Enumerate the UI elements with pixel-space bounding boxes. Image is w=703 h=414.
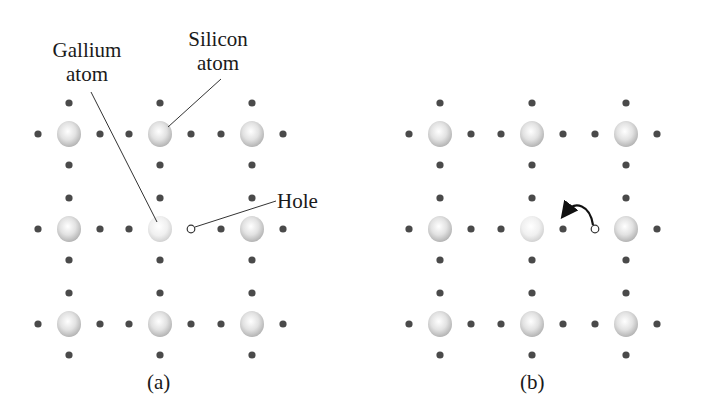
valence-electron bbox=[217, 225, 224, 232]
valence-electron bbox=[156, 351, 163, 358]
silicon-atom bbox=[428, 216, 452, 242]
leader-lines bbox=[91, 79, 276, 227]
valence-electron bbox=[34, 130, 41, 137]
valence-electron bbox=[436, 194, 443, 201]
valence-electron bbox=[405, 225, 412, 232]
valence-electron bbox=[248, 99, 255, 106]
valence-electron bbox=[156, 194, 163, 201]
valence-electron bbox=[653, 320, 660, 327]
silicon-atom-label: Silicon atom bbox=[176, 27, 260, 75]
valence-electron bbox=[187, 320, 194, 327]
silicon-label-line2: atom bbox=[176, 51, 260, 75]
valence-electron bbox=[528, 351, 535, 358]
valence-electron bbox=[436, 351, 443, 358]
valence-electron bbox=[467, 320, 474, 327]
silicon-label-line1: Silicon bbox=[176, 27, 260, 51]
valence-electron bbox=[467, 225, 474, 232]
gallium-atom bbox=[148, 216, 172, 242]
valence-electron bbox=[622, 351, 629, 358]
valence-electron bbox=[436, 99, 443, 106]
valence-electron bbox=[96, 130, 103, 137]
valence-electron bbox=[279, 225, 286, 232]
valence-electron bbox=[156, 256, 163, 263]
valence-electron bbox=[436, 161, 443, 168]
valence-electron bbox=[405, 320, 412, 327]
valence-electron bbox=[653, 225, 660, 232]
silicon-leader-line bbox=[168, 79, 221, 127]
caption-b: (b) bbox=[520, 370, 545, 395]
silicon-atom bbox=[57, 121, 81, 147]
hole-label: Hole bbox=[277, 189, 318, 213]
valence-electron bbox=[622, 256, 629, 263]
valence-electron bbox=[125, 320, 132, 327]
valence-electron bbox=[467, 130, 474, 137]
valence-electron bbox=[65, 289, 72, 296]
valence-electron bbox=[65, 256, 72, 263]
silicon-atom bbox=[520, 121, 544, 147]
valence-electron bbox=[96, 320, 103, 327]
valence-electron bbox=[622, 194, 629, 201]
valence-electron bbox=[528, 161, 535, 168]
valence-electron bbox=[248, 194, 255, 201]
valence-electron bbox=[622, 99, 629, 106]
silicon-atom bbox=[520, 311, 544, 337]
valence-electron bbox=[279, 320, 286, 327]
valence-electron bbox=[497, 320, 504, 327]
silicon-atom bbox=[428, 311, 452, 337]
valence-electron bbox=[248, 161, 255, 168]
valence-electron bbox=[622, 161, 629, 168]
valence-electron bbox=[528, 256, 535, 263]
gallium-leader-line bbox=[91, 92, 157, 222]
valence-electron bbox=[497, 130, 504, 137]
valence-electron bbox=[217, 130, 224, 137]
gallium-label-line2: atom bbox=[42, 62, 132, 86]
valence-electron bbox=[125, 130, 132, 137]
valence-electron bbox=[125, 225, 132, 232]
hole-marker bbox=[591, 225, 599, 233]
valence-electron bbox=[156, 99, 163, 106]
silicon-atom bbox=[240, 311, 264, 337]
valence-electron bbox=[405, 130, 412, 137]
valence-electron bbox=[528, 194, 535, 201]
hole-marker bbox=[187, 225, 195, 233]
silicon-atom bbox=[240, 121, 264, 147]
gallium-label-line1: Gallium bbox=[42, 38, 132, 62]
valence-electron bbox=[622, 289, 629, 296]
valence-electron bbox=[34, 320, 41, 327]
valence-electron bbox=[497, 225, 504, 232]
valence-electron bbox=[156, 161, 163, 168]
silicon-atom bbox=[614, 216, 638, 242]
valence-electron bbox=[156, 289, 163, 296]
silicon-atom bbox=[614, 311, 638, 337]
panel-a-lattice bbox=[34, 99, 286, 358]
hole-leader-line bbox=[195, 201, 276, 227]
caption-a: (a) bbox=[147, 370, 170, 395]
valence-electron bbox=[248, 351, 255, 358]
gallium-atom bbox=[520, 216, 544, 242]
valence-electron bbox=[65, 194, 72, 201]
valence-electron bbox=[528, 289, 535, 296]
valence-electron bbox=[248, 289, 255, 296]
valence-electron bbox=[559, 225, 566, 232]
silicon-atom bbox=[57, 216, 81, 242]
valence-electron bbox=[187, 130, 194, 137]
valence-electron bbox=[436, 256, 443, 263]
diagram-stage: Gallium atom Silicon atom Hole (a) (b) bbox=[0, 0, 703, 414]
silicon-atom bbox=[148, 121, 172, 147]
valence-electron bbox=[653, 130, 660, 137]
valence-electron bbox=[591, 320, 598, 327]
silicon-atom bbox=[240, 216, 264, 242]
silicon-atom bbox=[57, 311, 81, 337]
valence-electron bbox=[436, 289, 443, 296]
silicon-atom bbox=[614, 121, 638, 147]
valence-electron bbox=[279, 130, 286, 137]
valence-electron bbox=[217, 320, 224, 327]
valence-electron bbox=[528, 99, 535, 106]
valence-electron bbox=[248, 256, 255, 263]
valence-electron bbox=[65, 99, 72, 106]
gallium-atom-label: Gallium atom bbox=[42, 38, 132, 86]
hole-motion-arrow-icon bbox=[566, 206, 593, 225]
silicon-atom bbox=[428, 121, 452, 147]
valence-electron bbox=[65, 351, 72, 358]
valence-electron bbox=[65, 161, 72, 168]
